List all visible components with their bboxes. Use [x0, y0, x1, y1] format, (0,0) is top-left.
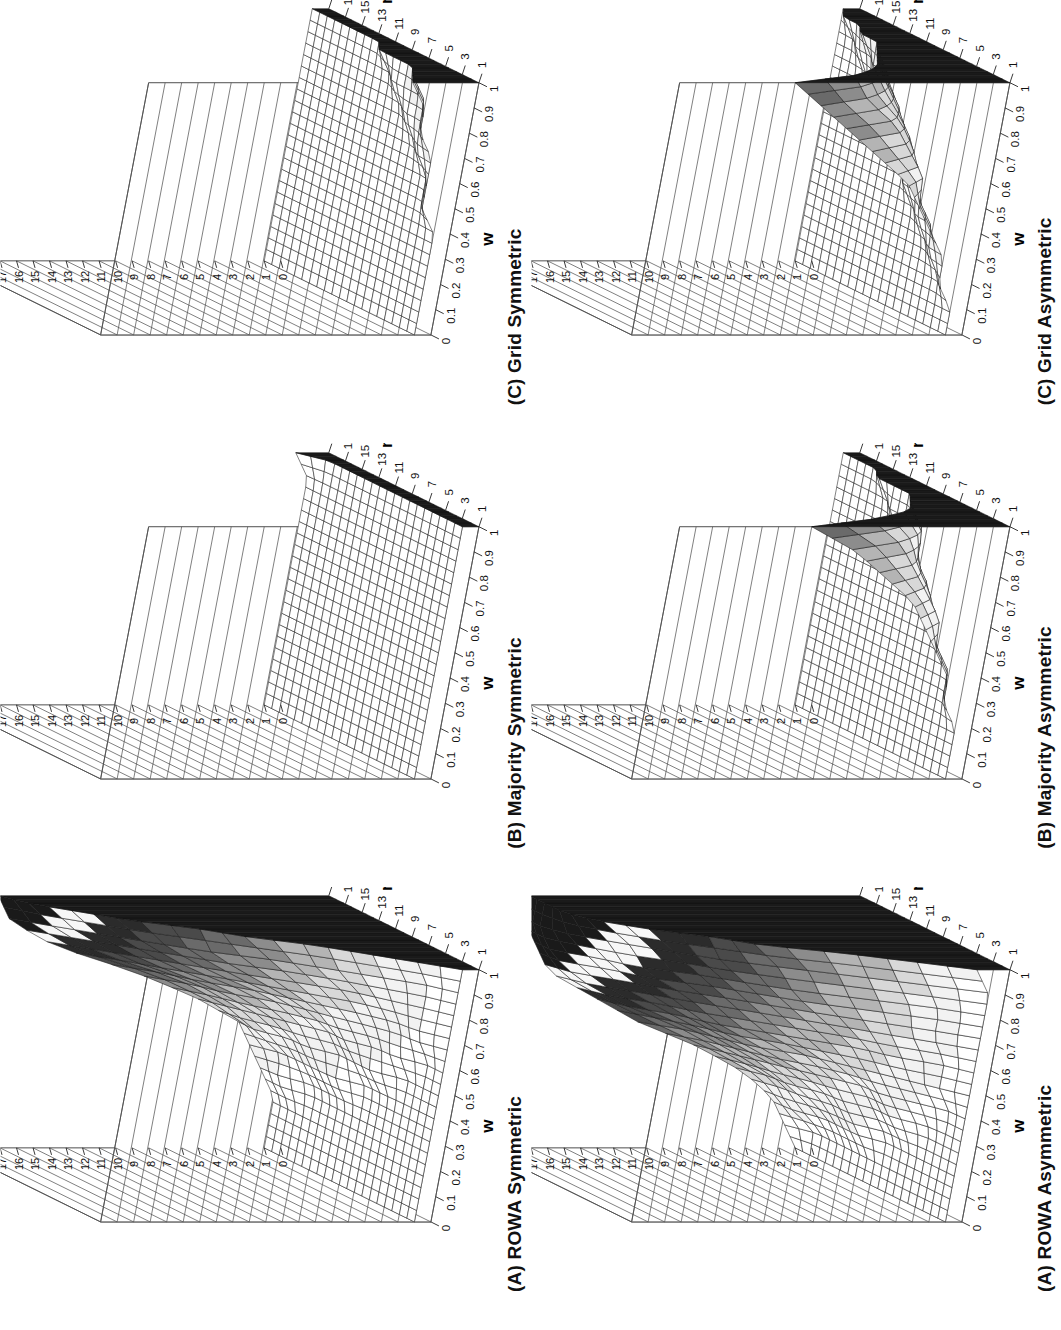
plot-panel-a-symmetric: 00.10.20.30.40.50.60.70.80.91w1357911131… — [0, 887, 531, 1330]
so-tick-label: 9 — [658, 274, 670, 280]
panel-title-c-asymmetric: (C) Grid Asymmetric — [1033, 217, 1055, 405]
n-tick-label: 5 — [973, 489, 985, 495]
n-tick-label: 1 — [475, 62, 487, 68]
w-tick-label: 0.2 — [449, 283, 461, 299]
so-tick-label: 14 — [45, 714, 57, 726]
so-tick-label: 5 — [724, 274, 736, 280]
w-tick-label: 0 — [970, 338, 982, 344]
so-tick-label: 11 — [625, 1158, 637, 1169]
so-tick-label: 2 — [243, 1161, 255, 1167]
so-tick-label: 15 — [29, 1158, 41, 1170]
so-tick-label: 5 — [724, 717, 736, 723]
so-tick-label: 5 — [194, 717, 206, 723]
n-axis-label: n — [376, 0, 395, 4]
so-tick-label: 7 — [691, 274, 703, 280]
n-tick-label: 9 — [939, 29, 951, 35]
so-tick-label: 6 — [177, 1161, 189, 1167]
n-tick-label: 7 — [425, 481, 437, 487]
so-tick-label: 15 — [29, 271, 41, 283]
plot-panel-a-asymmetric: 00.10.20.30.40.50.60.70.80.91w1357911131… — [531, 887, 1061, 1330]
so-tick-label: 17 — [0, 271, 8, 283]
w-tick-label: 0.8 — [478, 132, 490, 148]
so-tick-label: 8 — [675, 1161, 687, 1167]
so-tick-label: 16 — [543, 271, 555, 283]
so-tick-label: 1 — [790, 274, 802, 280]
w-tick-label: 0.1 — [975, 308, 987, 324]
so-tick-label: 13 — [62, 714, 74, 726]
w-tick-label: 0.4 — [459, 232, 471, 249]
panel-title-b-asymmetric: (B) Majority Asymmetric — [1033, 626, 1055, 848]
w-tick-label: 0.5 — [463, 1094, 475, 1110]
so-tick-label: 15 — [559, 714, 571, 726]
w-tick-label: 0 — [970, 781, 982, 787]
w-tick-label: 0.3 — [454, 1144, 466, 1160]
n-tick-label: 1 — [475, 949, 487, 955]
so-tick-label: 12 — [78, 1158, 90, 1170]
w-tick-label: 1 — [1018, 86, 1030, 92]
w-tick-label: 0.6 — [468, 625, 480, 641]
n-tick-label: 13 — [906, 896, 918, 909]
so-tick-label: 0 — [807, 274, 819, 280]
n-tick-label: 11 — [392, 18, 404, 30]
w-tick-label: 0.9 — [483, 106, 495, 122]
w-tick-label: 0.5 — [994, 651, 1006, 667]
n-tick-label: 5 — [973, 932, 985, 938]
n-tick-label: 1 — [1006, 949, 1018, 955]
so-tick-label: 16 — [12, 271, 24, 283]
w-tick-label: 0.2 — [449, 726, 461, 742]
w-axis-label: w — [1008, 232, 1027, 247]
so-tick-label: 8 — [675, 717, 687, 723]
n-tick-label: 5 — [442, 932, 454, 938]
so-tick-label: 9 — [128, 1161, 140, 1167]
w-tick-label: 1 — [487, 973, 499, 979]
n-tick-label: 15 — [359, 1, 371, 14]
surface-plot-a-symmetric: 00.10.20.30.40.50.60.70.80.91w1357911131… — [0, 887, 531, 1330]
w-tick-label: 0.6 — [999, 1069, 1011, 1085]
w-tick-label: 0.2 — [449, 1169, 461, 1185]
w-tick-label: 0.8 — [1008, 132, 1020, 148]
so-tick-label: 6 — [708, 1161, 720, 1167]
so-tick-label: 11 — [95, 272, 107, 283]
n-tick-label: 13 — [906, 453, 918, 466]
n-tick-label: 7 — [425, 37, 437, 43]
n-tick-label: 11 — [392, 905, 404, 917]
w-axis-label: w — [478, 232, 497, 247]
n-tick-label: 15 — [359, 444, 371, 457]
n-tick-label: 11 — [923, 18, 935, 30]
w-tick-label: 0.2 — [980, 1169, 992, 1185]
w-tick-label: 0 — [439, 338, 451, 344]
so-tick-label: 14 — [45, 1158, 57, 1170]
so-tick-label: 10 — [642, 271, 654, 283]
so-tick-label: 12 — [609, 714, 621, 726]
w-tick-label: 0.3 — [454, 258, 466, 274]
w-tick-label: 0.8 — [1008, 575, 1020, 591]
n-tick-label: 11 — [923, 461, 935, 473]
w-tick-label: 0.1 — [444, 751, 456, 767]
w-tick-label: 0.8 — [478, 575, 490, 591]
w-tick-label: 0.7 — [473, 600, 485, 616]
so-tick-label: 2 — [774, 717, 786, 723]
w-tick-label: 1 — [487, 86, 499, 92]
n-tick-label: 3 — [989, 940, 1001, 946]
surface-plot-b-symmetric: 00.10.20.30.40.50.60.70.80.91w1357911131… — [0, 443, 531, 886]
so-tick-label: 7 — [161, 274, 173, 280]
so-tick-label: 6 — [177, 717, 189, 723]
n-tick-label: 13 — [906, 9, 918, 22]
so-tick-label: 9 — [128, 717, 140, 723]
n-tick-label: 15 — [889, 888, 901, 901]
so-tick-label: 0 — [807, 1161, 819, 1167]
n-tick-label: 13 — [375, 896, 387, 909]
so-tick-label: 13 — [62, 1158, 74, 1170]
w-tick-label: 1 — [1018, 529, 1030, 535]
n-axis-label: n — [376, 443, 395, 447]
n-tick-label: 3 — [459, 940, 471, 946]
w-tick-label: 0.4 — [989, 675, 1001, 692]
n-tick-label: 7 — [956, 481, 968, 487]
w-tick-label: 0.5 — [994, 1094, 1006, 1110]
w-tick-label: 0.6 — [999, 625, 1011, 641]
n-tick-label: 5 — [442, 45, 454, 51]
so-tick-label: 10 — [642, 714, 654, 726]
n-tick-label: 9 — [409, 472, 421, 478]
w-tick-label: 0.3 — [984, 1144, 996, 1160]
w-tick-label: 0.6 — [468, 182, 480, 198]
